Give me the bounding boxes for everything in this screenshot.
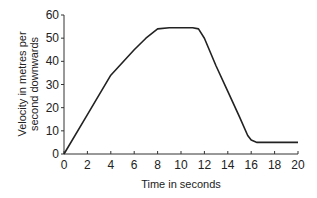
y-tick-label: 20 bbox=[46, 101, 60, 115]
y-axis-label-line-2: second downwards bbox=[28, 36, 40, 131]
axes bbox=[64, 15, 298, 154]
y-tick-label: 30 bbox=[46, 78, 60, 92]
x-tick-label: 12 bbox=[198, 158, 212, 172]
x-tick-label: 14 bbox=[221, 158, 235, 172]
y-tick-label: 40 bbox=[46, 54, 60, 68]
x-tick-label: 16 bbox=[245, 158, 259, 172]
x-tick-label: 6 bbox=[131, 158, 138, 172]
x-tick-label: 4 bbox=[107, 158, 114, 172]
y-tick-label: 0 bbox=[52, 147, 59, 161]
x-tick-label: 0 bbox=[61, 158, 68, 172]
y-axis-label-line-1: Velocity in metres per bbox=[16, 31, 28, 136]
y-tick-label: 60 bbox=[46, 8, 60, 22]
velocity-curve bbox=[64, 28, 298, 154]
y-tick-label: 50 bbox=[46, 31, 60, 45]
x-tick-label: 18 bbox=[268, 158, 282, 172]
y-axis-ticks: 0102030405060 bbox=[46, 8, 64, 161]
x-tick-label: 8 bbox=[154, 158, 161, 172]
x-tick-label: 2 bbox=[84, 158, 91, 172]
y-axis-label: Velocity in metres per second downwards bbox=[16, 31, 40, 136]
velocity-time-chart: 0102030405060 02468101214161820 Time in … bbox=[0, 0, 317, 198]
x-tick-label: 20 bbox=[291, 158, 305, 172]
x-axis-label: Time in seconds bbox=[141, 178, 221, 190]
x-tick-label: 10 bbox=[174, 158, 188, 172]
y-tick-label: 10 bbox=[46, 124, 60, 138]
